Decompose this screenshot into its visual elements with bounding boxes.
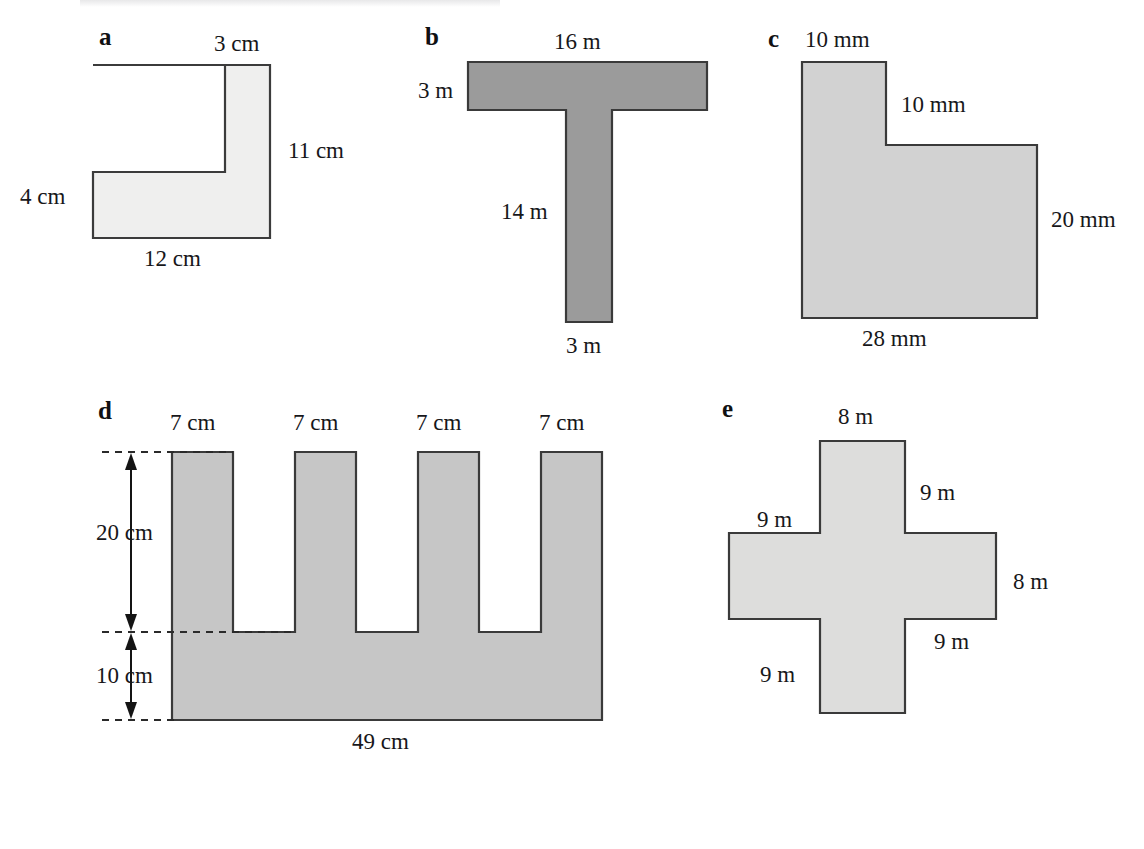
- shape-e-group: e 8 m 9 m 9 m 8 m 9 m 9 m: [0, 0, 1144, 780]
- figure-page: a 3 cm 11 cm 4 cm 12 cm b 16 m 3 m 14 m …: [0, 0, 1144, 849]
- item-letter-e: e: [722, 396, 733, 421]
- label-e-upper-left: 9 m: [757, 508, 792, 531]
- label-e-lower-left: 9 m: [760, 663, 795, 686]
- label-e-right: 8 m: [1013, 570, 1048, 593]
- label-e-top: 8 m: [838, 405, 873, 428]
- footer: explanation 5: [0, 770, 1144, 849]
- label-e-upper-right: 9 m: [920, 481, 955, 504]
- label-e-lower-right: 9 m: [934, 630, 969, 653]
- shape-e-svg: [0, 0, 1144, 780]
